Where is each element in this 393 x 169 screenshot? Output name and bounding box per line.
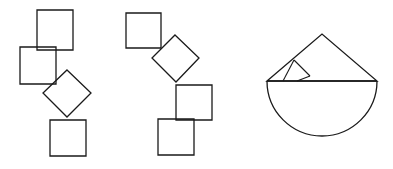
geometric-figure-canvas bbox=[0, 0, 393, 169]
